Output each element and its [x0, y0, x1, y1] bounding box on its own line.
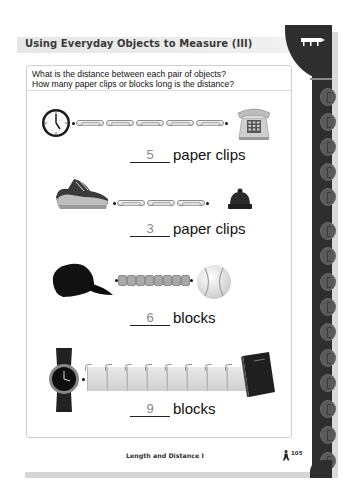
wristwatch-icon [47, 348, 81, 412]
start-point [82, 378, 85, 381]
block-icon [172, 275, 181, 286]
tab-marker-icon [320, 188, 336, 206]
unit-label: paper clips [173, 147, 246, 163]
tab-marker-icon [320, 323, 336, 341]
tab-marker-icon [320, 88, 336, 106]
block-icon [167, 367, 187, 391]
answer-field[interactable]: 9 [130, 401, 170, 417]
block-icon [107, 367, 127, 391]
instruction-line-2: How many paper clips or blocks long is t… [32, 79, 234, 89]
block-icon [154, 275, 163, 286]
answer-field[interactable]: 3 [130, 221, 170, 237]
running-kid-icon [282, 450, 290, 461]
answer-row-3: 6 blocks [130, 310, 216, 326]
paper-clip-icon [166, 120, 194, 126]
block-icon [118, 275, 127, 286]
block-icon [181, 275, 190, 286]
tab-marker-icon [320, 349, 336, 367]
page-shadow-bottom [25, 472, 338, 478]
side-tab-bottom [310, 460, 332, 478]
instruction-line-1: What is the distance between each pair o… [32, 69, 226, 79]
side-tab-cap [285, 25, 332, 81]
section-title: Length and Distance I [126, 452, 204, 459]
end-point [206, 202, 209, 205]
sneaker-icon [54, 177, 110, 211]
block-icon [187, 367, 207, 391]
paper-clip-icon [177, 200, 205, 206]
tab-marker-icon [320, 426, 336, 444]
instructions: What is the distance between each pair o… [27, 66, 291, 91]
paper-clip-icon [196, 120, 224, 126]
divider [310, 78, 332, 80]
baseball-icon [195, 263, 233, 301]
block-icon [127, 275, 136, 286]
answer-field[interactable]: 6 [130, 310, 170, 326]
paper-clip-icon [106, 120, 134, 126]
block-icon [207, 367, 227, 391]
answer-row-1: 5 paper clips [130, 147, 246, 163]
page-number: 105 [291, 450, 302, 456]
tab-marker-icon [320, 400, 336, 418]
tab-marker-icon [320, 222, 336, 240]
answer-row-2: 3 paper clips [130, 221, 246, 237]
answer-field[interactable]: 5 [130, 147, 170, 163]
tab-marker-icon [320, 298, 336, 316]
book-icon [241, 352, 277, 398]
block-icon [145, 275, 154, 286]
paper-clip-icon [136, 120, 164, 126]
end-point [190, 279, 193, 282]
block-icon [147, 367, 167, 391]
answer-row-4: 9 blocks [130, 401, 216, 417]
clock-icon [41, 108, 71, 138]
unit-label: blocks [173, 401, 216, 417]
exercise-panel: What is the distance between each pair o… [26, 65, 292, 438]
winter-hat-icon [227, 188, 253, 210]
paper-clip-icon [147, 200, 175, 206]
paper-clip-chain [72, 120, 228, 126]
paper-clip-icon [117, 200, 145, 206]
tab-marker-icon [320, 113, 336, 131]
tab-marker-icon [320, 138, 336, 156]
start-point [113, 202, 116, 205]
tab-marker-icon [320, 247, 336, 265]
start-point [72, 122, 75, 125]
tab-marker-icon [320, 273, 336, 291]
tab-marker-icon [320, 163, 336, 181]
ruler-icon [300, 37, 326, 47]
unit-label: paper clips [173, 221, 246, 237]
page-number-area: 105 [282, 450, 302, 461]
page-title: Using Everyday Objects to Measure (III) [25, 38, 253, 49]
baseball-cap-icon [49, 261, 115, 301]
paper-clip-icon [76, 120, 104, 126]
telephone-icon [235, 104, 273, 142]
tab-marker-icon [320, 374, 336, 392]
unit-label: blocks [173, 310, 216, 326]
block-icon [127, 367, 147, 391]
block-icon [163, 275, 172, 286]
end-point [225, 122, 228, 125]
block-icon [87, 367, 107, 391]
block-icon [136, 275, 145, 286]
block-chain [115, 275, 193, 286]
paper-clip-chain [113, 200, 209, 206]
